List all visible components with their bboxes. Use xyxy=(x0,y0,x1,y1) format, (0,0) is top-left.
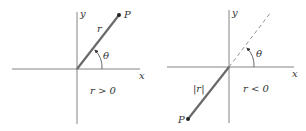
point-p xyxy=(117,13,121,17)
angle-label: θ xyxy=(103,50,109,61)
diagram-negative-r: y θ x |r| r < 0 P xyxy=(167,7,298,125)
point-p xyxy=(186,117,190,121)
angle-label: θ xyxy=(256,48,262,59)
point-label: P xyxy=(177,114,185,125)
diagram-positive-r: y P r θ x r > 0 xyxy=(12,8,145,124)
condition-label: r > 0 xyxy=(90,85,117,96)
y-axis-label: y xyxy=(231,7,238,18)
condition-label: r < 0 xyxy=(243,83,270,94)
y-axis-label: y xyxy=(79,8,86,19)
point-label: P xyxy=(123,9,131,20)
radius-label: r xyxy=(97,23,103,34)
polar-diagrams: y P r θ x r > 0 y θ x |r| r < 0 P xyxy=(0,0,306,131)
dashed-direction-line xyxy=(229,12,271,67)
angle-arc xyxy=(95,50,102,69)
x-axis-label: x xyxy=(139,70,145,81)
radius-label: |r| xyxy=(193,83,205,95)
x-axis-label: x xyxy=(292,68,298,79)
angle-arc xyxy=(247,48,254,67)
